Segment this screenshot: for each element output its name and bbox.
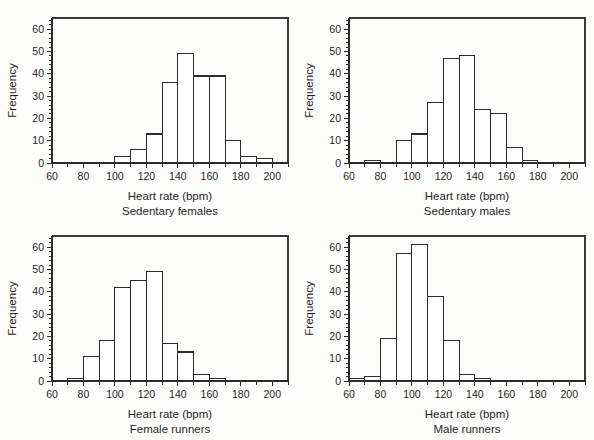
x-tick-label: 160 [498, 170, 516, 182]
histogram-bar [225, 141, 241, 163]
histogram-bar [194, 76, 210, 163]
panel-sedentary-males: 60801001201401601802000102030405060Frequ… [297, 0, 594, 220]
x-tick-label: 140 [466, 388, 484, 400]
x-tick-label: 200 [264, 170, 282, 182]
histogram-bar [475, 109, 491, 163]
y-axis-title: Frequency [6, 281, 18, 336]
chart-canvas-1: 60801001201401601802000102030405060Frequ… [297, 0, 594, 220]
histogram-bar [396, 141, 412, 163]
histogram-bar [241, 156, 257, 163]
histogram-bar [115, 287, 131, 381]
histogram-bars [349, 245, 491, 381]
histogram-bar [146, 272, 162, 381]
x-tick-label: 100 [403, 170, 421, 182]
y-tick-label: 40 [329, 285, 341, 297]
x-tick-label: 80 [78, 170, 90, 182]
histogram-bar [131, 281, 147, 381]
histogram-figure: 60801001201401601802000102030405060Frequ… [0, 0, 594, 440]
chart-canvas-3: 60801001201401601802000102030405060Frequ… [297, 218, 594, 438]
panel-male-runners: 60801001201401601802000102030405060Frequ… [297, 218, 594, 438]
histogram-bar [412, 134, 428, 163]
x-tick-label: 160 [498, 388, 516, 400]
histogram-bar [146, 134, 162, 163]
y-tick-label: 0 [38, 157, 44, 169]
y-tick-label: 50 [32, 45, 44, 57]
histogram-bar [443, 58, 459, 163]
x-tick-label: 200 [561, 388, 579, 400]
x-tick-label: 60 [343, 170, 355, 182]
histogram-bar [443, 341, 459, 381]
histogram-bar [178, 54, 194, 163]
y-tick-label: 60 [329, 241, 341, 253]
y-tick-label: 0 [335, 157, 341, 169]
histogram-bar [194, 374, 210, 381]
x-tick-label: 100 [403, 388, 421, 400]
x-tick-label: 180 [232, 388, 250, 400]
y-tick-label: 30 [329, 90, 341, 102]
histogram-bars [115, 54, 272, 163]
x-tick-label: 180 [529, 388, 547, 400]
x-axis-title: Heart rate (bpm) [425, 408, 510, 420]
y-tick-label: 60 [32, 241, 44, 253]
y-tick-label: 60 [32, 23, 44, 35]
x-tick-label: 140 [466, 170, 484, 182]
x-tick-label: 100 [106, 388, 124, 400]
y-tick-label: 0 [38, 375, 44, 387]
panel-sedentary-females: 60801001201401601802000102030405060Frequ… [0, 0, 297, 220]
y-tick-label: 10 [329, 134, 341, 146]
x-tick-label: 100 [106, 170, 124, 182]
y-tick-label: 20 [32, 112, 44, 124]
x-tick-label: 200 [264, 388, 282, 400]
x-tick-label: 60 [343, 388, 355, 400]
chart-canvas-0: 60801001201401601802000102030405060Frequ… [0, 0, 297, 220]
y-axis-title: Frequency [303, 281, 315, 336]
histogram-bar [365, 377, 381, 381]
y-axis-title: Frequency [303, 63, 315, 118]
x-tick-label: 180 [232, 170, 250, 182]
y-tick-label: 50 [329, 45, 341, 57]
x-tick-label: 80 [78, 388, 90, 400]
histogram-bar [365, 161, 381, 163]
histogram-bar [412, 245, 428, 381]
histogram-bar [209, 379, 225, 381]
x-tick-label: 60 [46, 388, 58, 400]
histogram-bar [209, 76, 225, 163]
panel-caption: Male runners [433, 423, 500, 435]
x-tick-label: 120 [138, 170, 156, 182]
x-tick-label: 180 [529, 170, 547, 182]
histogram-bar [380, 339, 396, 381]
x-tick-label: 80 [375, 170, 387, 182]
x-tick-label: 60 [46, 170, 58, 182]
y-tick-label: 20 [32, 330, 44, 342]
chart-canvas-2: 60801001201401601802000102030405060Frequ… [0, 218, 297, 438]
panel-caption: Female runners [130, 423, 211, 435]
histogram-bar [178, 352, 194, 381]
histogram-bar [475, 379, 491, 381]
y-tick-label: 10 [329, 352, 341, 364]
histogram-bar [396, 254, 412, 381]
histogram-bar [83, 356, 99, 381]
y-tick-label: 20 [329, 330, 341, 342]
x-tick-label: 80 [375, 388, 387, 400]
y-tick-label: 50 [329, 263, 341, 275]
histogram-bars [365, 56, 538, 163]
y-tick-label: 20 [329, 112, 341, 124]
histogram-bar [257, 159, 273, 163]
histogram-bar [349, 379, 365, 381]
y-axis-title: Frequency [6, 63, 18, 118]
histogram-bar [68, 379, 84, 381]
panel-female-runners: 60801001201401601802000102030405060Frequ… [0, 218, 297, 438]
y-tick-label: 40 [32, 67, 44, 79]
histogram-bar [506, 147, 522, 163]
y-tick-label: 40 [329, 67, 341, 79]
x-tick-label: 160 [201, 388, 219, 400]
x-tick-label: 120 [138, 388, 156, 400]
histogram-bar [115, 156, 131, 163]
x-axis-title: Heart rate (bpm) [128, 408, 213, 420]
x-axis-title: Heart rate (bpm) [425, 190, 510, 202]
histogram-bar [428, 296, 444, 381]
x-tick-label: 140 [169, 388, 187, 400]
y-tick-label: 50 [32, 263, 44, 275]
histogram-bar [428, 103, 444, 163]
x-tick-label: 140 [169, 170, 187, 182]
